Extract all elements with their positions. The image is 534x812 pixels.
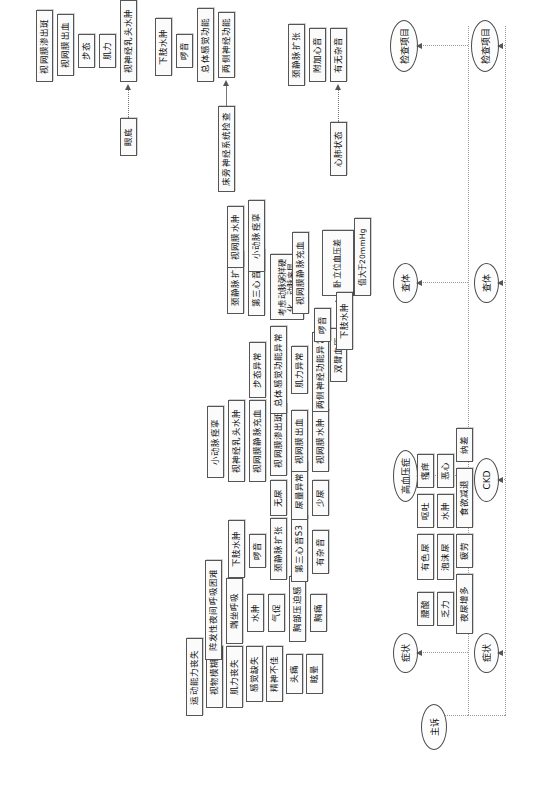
node-complaint-muscle-weakness[interactable]: 肌力丧失 [226,646,243,708]
node-label: 颈静脉扩张 [274,526,283,572]
node-ckd-colored-urine[interactable]: 有色尿 [417,534,434,580]
node-ckd-nocturia[interactable]: 夜尿增多 [456,574,473,634]
node-label: 阵发性夜间呼吸困难 [209,569,218,652]
node-complaint-edema[interactable]: 水肿 [247,594,264,632]
node-complaint-motor-loss[interactable]: 运动能力丧失 [186,638,203,716]
stage-node-chief-complaint[interactable]: 主诉 [421,704,447,750]
node-complaint-dyspnea[interactable]: 气促 [268,594,285,632]
node-exam-finding-extra-heart-sound[interactable]: 附加心音 [309,28,326,82]
node-exam-rales[interactable]: 啰音 [314,308,331,342]
node-exam-finding-retinal-exudate[interactable]: 视网膜渗出斑 [36,10,53,82]
node-sign-s3[interactable]: 第三心音S3 [291,516,308,582]
node-label: 纳差 [460,436,469,454]
node-complaint-chest-pressure[interactable]: 胸部压迫感 [289,576,306,642]
stage-node-exam-items-ckd[interactable]: 检查项目 [471,20,499,72]
node-exam-arteriolar-spasm[interactable]: 小动脉痉挛 [248,200,265,272]
node-label: 视神经乳头水肿 [124,9,133,73]
node-exam-leg-edema[interactable]: 下肢水肿 [336,292,353,350]
node-exam-finding-jvd[interactable]: 颈静脉扩张 [288,24,305,86]
node-ckd-poor-intake[interactable]: 纳差 [456,428,473,462]
node-exam-retinal-vein-congestion[interactable]: 视网膜静脉充血 [292,232,309,314]
stage-label-hypertension: 高血压症 [399,458,412,494]
node-exam-orthostatic-bp-diff[interactable]: 卧立位血压差 [322,230,354,296]
stage-node-symptom-hypertension[interactable]: 症状 [393,633,418,673]
node-exam-finding-retinal-hemorrhage[interactable]: 视网膜出血 [57,14,74,76]
stage-node-exam-hypertension[interactable]: 查体 [393,263,418,303]
stage-label-symptom-ckd: 症状 [480,644,493,662]
node-sign-leg-edema[interactable]: 下肢水肿 [228,520,245,578]
node-complaint-pnd[interactable]: 阵发性夜间呼吸困难 [205,560,222,660]
node-ckd-appetite-loss[interactable]: 食欲减退 [456,468,473,528]
node-complaint-orthopnea[interactable]: 端坐呼吸 [226,578,243,644]
node-lab-bilateral-neuro-abnormal[interactable]: 两侧神经功能异常 [312,332,329,412]
node-label: 乏力 [441,600,450,618]
node-exam-finding-rales[interactable]: 啰音 [176,34,193,68]
node-exam-finding-muscle-strength[interactable]: 肌力 [99,34,116,68]
node-exam-finding-papilledema[interactable]: 视神经乳头水肿 [120,0,137,82]
node-lab-papilledema[interactable]: 视神经乳头水肿 [228,400,245,482]
node-label: 无尿 [274,489,283,507]
node-lab-global-sensation-abnormal[interactable]: 总体感觉功能异常 [270,326,287,414]
node-exam-retinal-edema[interactable]: 视网膜水肿 [227,206,244,268]
stage-node-ckd[interactable]: CKD [474,458,499,502]
node-lab-gait-abnormal[interactable]: 步态异常 [249,342,266,398]
node-ckd-vomiting[interactable]: 呕吐 [417,494,434,528]
node-lab-oliguria[interactable]: 少尿 [312,480,329,516]
node-exam-finding-gait[interactable]: 步态 [78,34,95,68]
node-label: 运动能力丧失 [190,649,199,704]
flowchart-rotated-canvas: 主诉 症状 高血压症 查体 检查项目 症状 CKD [0,0,534,812]
node-exam-finding-leg-edema[interactable]: 下肢水肿 [155,18,172,76]
node-label: 值大于20mmHg [359,228,367,285]
node-ckd-nausea[interactable]: 恶心 [437,454,454,488]
arrow-fundus-to-findings [125,84,131,90]
node-label: 啰音 [180,42,189,60]
node-sign-jvd[interactable]: 颈静脉扩张 [270,518,287,580]
node-label: 第三心音S3 [295,525,304,573]
stage-node-exam-ckd[interactable]: 查体 [474,263,499,303]
node-label: 有无杂音 [334,37,343,74]
node-ckd-itching[interactable]: 瘙痒 [417,454,434,488]
node-label: 视物模糊 [210,659,219,696]
node-ckd-edema[interactable]: 水肿 [437,494,454,528]
node-exam-finding-global-sensation[interactable]: 总体感觉功能 [197,8,214,82]
node-exam-bp-threshold[interactable]: 值大于20mmHg [354,218,371,296]
node-label: 瘙痒 [421,462,430,480]
node-lab-muscle-strength-abnormal[interactable]: 肌力异常 [291,346,308,394]
node-complaint-chest-pain[interactable]: 胸痛 [310,594,327,632]
node-ckd-tiredness[interactable]: 疲劳 [456,534,473,568]
node-label: 泡沫尿 [441,543,450,571]
node-label: 胸部压迫感 [293,586,302,632]
node-exam-item-heart-lung-status[interactable]: 心肺状态 [330,122,347,176]
node-lab-retinal-exudate[interactable]: 视网膜渗出斑 [270,404,287,476]
stage-label-exam-items-hypertension: 检查项目 [398,28,411,64]
node-label: 胸痛 [314,604,323,622]
node-ckd-fatigue-weakness[interactable]: 乏力 [437,592,454,626]
node-label: 尿量异常 [295,473,304,510]
node-lab-retinal-edema[interactable]: 视网膜水肿 [312,410,329,472]
node-exam-item-fundus[interactable]: 眼底 [120,118,137,156]
node-sign-rales[interactable]: 啰音 [249,534,266,568]
node-complaint-headache[interactable]: 头痛 [286,654,303,694]
node-lab-arteriolar-spasm[interactable]: 小动脉痉挛 [207,406,224,478]
node-ckd-foamy-urine[interactable]: 泡沫尿 [437,534,454,580]
node-label: 啰音 [253,542,262,560]
node-ckd-back-soreness[interactable]: 腰酸 [417,592,434,626]
node-label: 精神不佳 [270,656,279,693]
node-label: 两侧神经功能 [222,17,231,72]
stage-node-symptom-ckd[interactable]: 症状 [474,633,499,673]
node-lab-anuria[interactable]: 无尿 [270,480,287,516]
node-exam-item-bedside-neuro[interactable]: 床旁神经系统检查 [218,106,235,192]
node-label: 附加心音 [313,37,322,74]
node-lab-retinal-hemorrhage[interactable]: 视网膜出血 [291,410,308,472]
stage-node-exam-items-hypertension[interactable]: 检查项目 [390,20,418,72]
node-exam-finding-bilateral-neuro[interactable]: 两侧神经功能 [218,12,235,78]
node-label: 心肺状态 [334,131,343,168]
node-lab-retinal-vein-congestion[interactable]: 视网膜静脉充血 [249,400,266,482]
node-label: 视网膜静脉充血 [296,241,305,305]
node-sign-murmur[interactable]: 有杂音 [312,530,329,574]
node-complaint-poor-spirits[interactable]: 精神不佳 [266,646,283,702]
stage-node-hypertension[interactable]: 高血压症 [393,450,418,502]
node-exam-finding-murmur-presence[interactable]: 有无杂音 [330,28,347,82]
node-complaint-sensory-loss[interactable]: 感觉缺失 [246,646,263,702]
node-complaint-dizziness[interactable]: 眩晕 [306,654,323,694]
